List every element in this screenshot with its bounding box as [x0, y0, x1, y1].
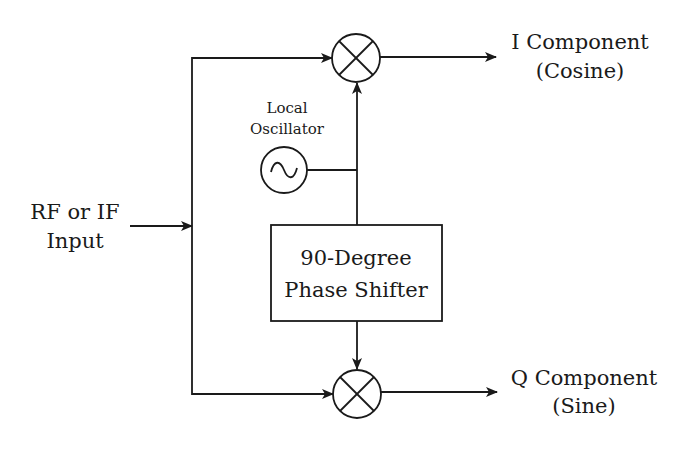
- q-output-label-line1: Q Component: [511, 366, 658, 390]
- oscillator-sine-icon: [261, 147, 307, 193]
- i-output-label-line2: (Cosine): [536, 59, 625, 83]
- q-output-label-line2: (Sine): [552, 394, 615, 418]
- input-split-bus: [192, 58, 333, 394]
- bottom-mixer-icon: [333, 370, 381, 418]
- lo-label-line1: Local: [266, 99, 307, 117]
- top-mixer-icon: [332, 34, 380, 82]
- phase-shifter-box: [271, 225, 442, 321]
- phase-shifter-label-line1: 90-Degree: [300, 246, 411, 270]
- phase-shifter-label-line2: Phase Shifter: [284, 278, 428, 302]
- iq-demodulator-diagram: RF or IF Input I Component (Cosine) Q Co…: [0, 0, 700, 450]
- lo-label-line2: Oscillator: [250, 120, 325, 138]
- input-label-line1: RF or IF: [30, 200, 119, 224]
- input-label-line2: Input: [46, 229, 104, 253]
- i-output-label-line1: I Component: [511, 30, 649, 54]
